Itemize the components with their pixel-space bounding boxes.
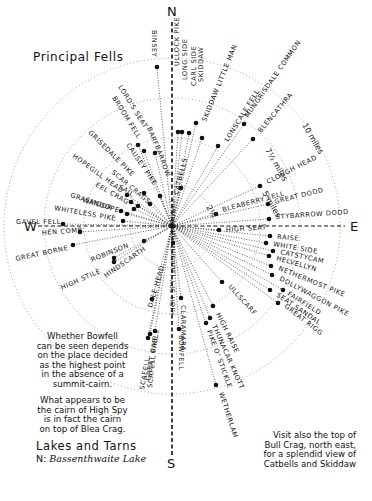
viewpoint-center <box>170 224 175 229</box>
summit-dot <box>211 304 216 309</box>
summit-dot <box>200 136 205 141</box>
summit-dot <box>268 234 273 239</box>
fell-label: MUNGRISDALE COMMON <box>243 39 303 120</box>
note-bull-crag: Visit also the top of Bull Crag, north e… <box>248 431 356 469</box>
summit-dot <box>132 207 137 212</box>
summit-dot <box>180 130 185 135</box>
compass-east-label: E <box>350 219 358 234</box>
summit-dot <box>142 191 147 196</box>
summit-dot <box>194 121 199 126</box>
summit-dot <box>71 243 76 248</box>
fell-label: HEN COMB <box>42 226 83 237</box>
fell-label: HIGH SPY (summit not shown) <box>169 199 177 315</box>
lakes-direction: N: <box>36 453 46 464</box>
sightline <box>134 209 172 226</box>
note-line: Bull Crag, north east, <box>265 440 357 450</box>
note-line: Visit also the top of <box>273 430 356 440</box>
fell-label: WETHERLAM <box>217 391 239 439</box>
fell-label: LONG SIDE <box>181 38 189 80</box>
fell-label: ULLOCK PIKE <box>173 17 181 66</box>
note-line: is in fact the cairn <box>44 414 121 424</box>
sightline <box>172 226 271 266</box>
summit-dot <box>61 222 66 227</box>
note-line: on the place decided <box>37 350 127 360</box>
summit-dot <box>121 219 126 224</box>
fell-label: CATBELLS <box>172 157 189 195</box>
sightline <box>127 214 172 226</box>
lakes-list: N: Bassenthwaite Lake <box>36 453 146 464</box>
summit-dot <box>176 130 181 135</box>
fell-label: SKIDDAW <box>197 47 205 82</box>
note-line: for a splendid view of <box>264 449 356 459</box>
fell-label: BOWFELL <box>177 335 185 371</box>
summit-dot <box>125 212 130 217</box>
note-line: Catbells and Skiddaw <box>264 459 356 469</box>
compass-south-label: S <box>167 456 175 471</box>
diagram-title: Principal Fells <box>33 50 124 64</box>
lakes-heading: Lakes and Tarns <box>36 439 146 453</box>
summit-dot <box>153 329 158 334</box>
fell-label: BARF <box>145 126 160 147</box>
summit-dot <box>251 137 256 142</box>
summit-dot <box>242 122 247 127</box>
summit-dot <box>258 184 263 189</box>
note-line: on top of Blea Crag. <box>40 424 126 434</box>
summit-dot <box>216 144 221 149</box>
sightline <box>172 204 268 226</box>
summit-dot <box>267 217 272 222</box>
summit-dot <box>187 131 192 136</box>
lake-name: Bassenthwaite Lake <box>49 453 146 464</box>
summit-dot <box>271 249 276 254</box>
sightline <box>172 226 206 323</box>
summit-dot <box>155 65 160 70</box>
summit-dot <box>266 202 271 207</box>
sightline <box>80 226 172 232</box>
note-line: can be seen depends <box>37 341 129 351</box>
summit-dot <box>217 228 222 233</box>
lakes-and-tarns: Lakes and Tarns N: Bassenthwaite Lake <box>36 439 146 464</box>
fell-label: GREAT DODD <box>274 186 325 206</box>
fell-label: GREAT BORNE <box>15 244 69 263</box>
note-line: summit-cairn. <box>53 379 112 389</box>
ring-label: 2½ <box>204 204 218 220</box>
fell-label: BARROW <box>153 144 172 178</box>
summit-dot <box>177 327 182 332</box>
summit-dot <box>112 260 117 265</box>
summit-dot <box>204 321 209 326</box>
summit-dot <box>220 280 225 285</box>
summit-dot <box>269 264 274 269</box>
summit-dot <box>214 383 219 388</box>
summit-dot <box>136 143 141 148</box>
compass-north-label: N <box>167 4 177 19</box>
fell-label: DALE HEAD <box>146 265 166 309</box>
summit-dot <box>119 209 124 214</box>
fell-label: HIGH SEAT <box>226 223 268 234</box>
summit-dot <box>136 204 141 209</box>
summit-dot <box>267 254 272 259</box>
note-line: What appears to be <box>40 395 125 405</box>
summit-dot <box>158 194 163 199</box>
summit-dot <box>129 200 134 205</box>
summit-dot <box>146 336 151 341</box>
fell-label: HIGH STILE <box>60 267 103 292</box>
fell-label: BINSEY <box>150 30 158 58</box>
sightline <box>172 226 283 290</box>
summit-dot <box>268 288 273 293</box>
summit-dot <box>270 273 275 278</box>
summit-dot <box>125 193 130 198</box>
fell-label: SKIDDAW LITTLE MAN <box>200 43 238 123</box>
summit-dot <box>264 241 269 246</box>
sightline <box>172 226 272 275</box>
fell-label: GAVEL FELL <box>16 218 61 226</box>
fell-label: SCAFELL PIKE <box>146 335 159 388</box>
note-line: in the absence of a <box>41 369 123 379</box>
ring-label: 10 miles <box>300 122 325 156</box>
summit-dot <box>214 212 219 217</box>
summit-dot <box>142 149 147 154</box>
note-line: Whether Bowfell <box>47 331 118 341</box>
note-bowfell-visibility: Whether Bowfell can be seen depends on t… <box>30 332 135 441</box>
summit-dot <box>142 239 147 244</box>
note-line: the cairn of High Spy <box>37 405 127 415</box>
fell-label: STYBARROW DODD <box>276 208 349 221</box>
summit-dot <box>276 301 281 306</box>
